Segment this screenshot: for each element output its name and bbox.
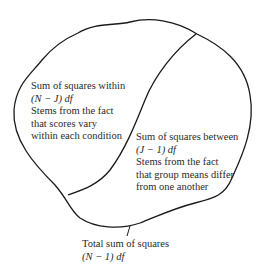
between-label: Sum of squares between (J − 1) df Stems … xyxy=(136,131,238,194)
total-df: (N − 1) df xyxy=(82,251,169,264)
variance-partition-diagram: Sum of squares within (N − J) df Stems f… xyxy=(0,0,264,271)
within-desc-1: Stems from the fact xyxy=(31,105,125,118)
between-df: (J − 1) df xyxy=(136,144,238,157)
between-desc-1: Stems from the fact xyxy=(136,156,238,169)
between-desc-2: that group means differ xyxy=(136,169,238,182)
total-label: Total sum of squares (N − 1) df xyxy=(82,238,169,263)
between-title: Sum of squares between xyxy=(136,131,238,144)
within-title: Sum of squares within xyxy=(31,80,125,93)
within-desc-2: that scores vary xyxy=(31,118,125,131)
between-desc-3: from one another xyxy=(136,181,238,194)
total-title: Total sum of squares xyxy=(82,238,169,251)
within-df: (N − J) df xyxy=(31,93,125,106)
total-pointer-line xyxy=(127,226,130,236)
within-label: Sum of squares within (N − J) df Stems f… xyxy=(31,80,125,143)
within-desc-3: within each condition xyxy=(31,130,125,143)
